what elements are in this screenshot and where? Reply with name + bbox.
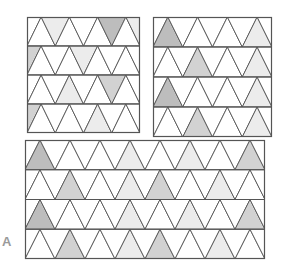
tessellation-panel-bottom [25,140,265,259]
triangle-grid [25,140,265,259]
tessellation-panel-top-left [27,17,140,133]
tessellation-panel-top-right [153,17,272,137]
figure-label: A [2,234,11,249]
triangle-grid [153,17,272,137]
triangle-grid [27,17,140,133]
